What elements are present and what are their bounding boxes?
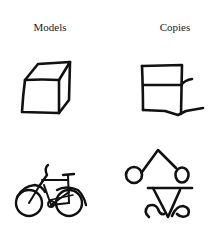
drawings-canvas — [0, 0, 217, 240]
model-bicycle-drawing — [16, 165, 86, 216]
copy-box-drawing — [142, 65, 203, 115]
model-cube-drawing — [22, 62, 70, 113]
copy-bicycle-drawing — [126, 150, 192, 217]
